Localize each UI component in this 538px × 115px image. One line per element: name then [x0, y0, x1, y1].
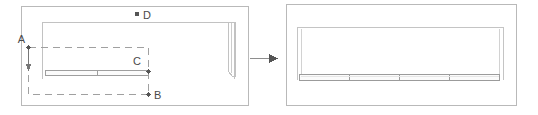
left-panel: A B C D: [18, 7, 249, 106]
point-marker-d: [135, 12, 139, 16]
point-label-b: B: [154, 89, 161, 101]
transform-arrow: [250, 54, 278, 63]
point-marker-b: [146, 92, 150, 96]
diagram-svg: A B C D: [0, 0, 538, 115]
right-panel: [287, 5, 517, 106]
point-marker-a: [26, 45, 30, 49]
diagram-canvas: A B C D: [0, 0, 538, 115]
point-label-c: C: [133, 55, 141, 67]
right-inner-enclosure: [298, 28, 504, 80]
leader-arrowhead-a: [26, 64, 32, 71]
transform-arrow-head: [269, 54, 278, 63]
point-marker-c: [146, 69, 150, 73]
point-label-a: A: [18, 33, 26, 45]
right-panel-frame: [287, 5, 517, 106]
point-label-d: D: [143, 9, 151, 21]
